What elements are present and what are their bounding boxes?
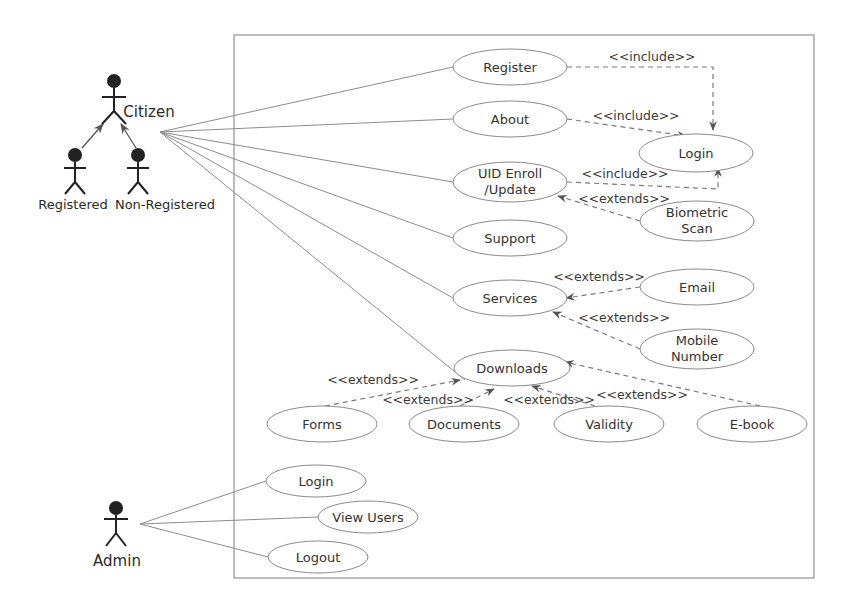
svg-text:/Update: /Update bbox=[484, 182, 535, 197]
svg-text:View Users: View Users bbox=[332, 510, 404, 525]
actor-label-non-registered: Non-Registered bbox=[115, 197, 215, 212]
use-case-diagram: Citizen Registered Non-Registered Admin … bbox=[0, 0, 846, 608]
svg-text:Login: Login bbox=[678, 146, 713, 161]
actor-label-admin: Admin bbox=[93, 552, 141, 570]
stereotype-labels: <<include>> bbox=[608, 49, 695, 64]
use-case-register: Register bbox=[453, 49, 567, 85]
svg-text:About: About bbox=[491, 112, 529, 127]
use-case-about: About bbox=[453, 101, 567, 137]
actor-label-registered: Registered bbox=[38, 197, 108, 212]
use-case-email: Email bbox=[640, 269, 754, 305]
svg-text:Email: Email bbox=[679, 280, 715, 295]
use-case-biometric-scan: Biometric Scan bbox=[640, 201, 754, 241]
generalizations bbox=[82, 124, 136, 148]
svg-text:UID Enroll: UID Enroll bbox=[478, 166, 542, 181]
use-case-support: Support bbox=[453, 220, 567, 256]
use-case-downloads: Downloads bbox=[454, 350, 570, 386]
svg-text:Login: Login bbox=[298, 474, 333, 489]
svg-text:Number: Number bbox=[671, 349, 724, 364]
use-case-mobile-number: Mobile Number bbox=[640, 329, 754, 369]
actor-admin: Admin bbox=[93, 501, 141, 570]
stereotype-uid-login: <<include>> bbox=[581, 166, 668, 181]
stereotype-mobile-services: <<extends>> bbox=[578, 310, 670, 325]
use-case-services: Services bbox=[453, 280, 567, 316]
stereotype-biometric-uid: <<extends>> bbox=[578, 191, 670, 206]
svg-text:Mobile: Mobile bbox=[676, 333, 719, 348]
svg-text:Scan: Scan bbox=[681, 221, 713, 236]
svg-text:Validity: Validity bbox=[585, 417, 633, 432]
use-case-ebook: E-book bbox=[697, 406, 807, 442]
svg-text:Documents: Documents bbox=[427, 417, 501, 432]
use-case-validity: Validity bbox=[554, 406, 664, 442]
svg-text:Register: Register bbox=[483, 60, 537, 75]
actor-label-citizen: Citizen bbox=[123, 103, 174, 121]
stereotype-documents-downloads: <<extends>> bbox=[382, 392, 474, 407]
stereotype-forms-downloads: <<extends>> bbox=[327, 372, 419, 387]
stereotype-validity-downloads: <<extends>> bbox=[503, 392, 595, 407]
stereotype-email-services: <<extends>> bbox=[553, 269, 645, 284]
stereotype-about-login: <<include>> bbox=[592, 108, 679, 123]
svg-text:Services: Services bbox=[483, 291, 538, 306]
use-case-logout: Logout bbox=[268, 541, 368, 573]
svg-text:Forms: Forms bbox=[302, 417, 342, 432]
stereotype-register-login: <<include>> bbox=[608, 49, 695, 64]
actor-citizen: Citizen bbox=[102, 74, 175, 124]
use-case-admin-login: Login bbox=[266, 465, 366, 497]
use-case-forms: Forms bbox=[267, 406, 377, 442]
svg-text:E-book: E-book bbox=[730, 417, 775, 432]
svg-text:Biometric: Biometric bbox=[666, 205, 728, 220]
svg-text:Downloads: Downloads bbox=[476, 361, 548, 376]
actor-registered: Registered bbox=[38, 148, 108, 212]
use-case-view-users: View Users bbox=[318, 501, 418, 533]
citizen-associations bbox=[160, 67, 465, 380]
use-case-documents: Documents bbox=[409, 406, 519, 442]
svg-text:Logout: Logout bbox=[296, 550, 341, 565]
use-case-uid-enroll-update: UID Enroll /Update bbox=[453, 162, 567, 202]
svg-text:Support: Support bbox=[484, 231, 535, 246]
actor-non-registered: Non-Registered bbox=[115, 148, 215, 212]
stereotype-ebook-downloads: <<extends>> bbox=[596, 387, 688, 402]
